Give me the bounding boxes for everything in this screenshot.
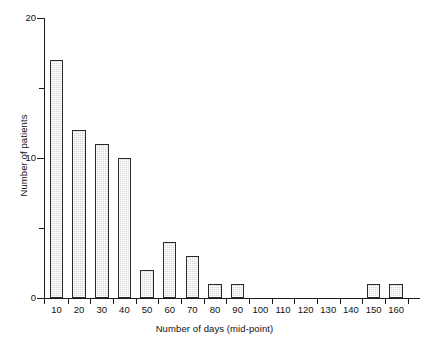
x-axis-tick [181, 299, 182, 304]
y-axis-tick-label: 0 [2, 292, 36, 303]
bar [186, 256, 200, 298]
x-axis-line [44, 298, 420, 299]
x-axis-tick [317, 299, 318, 304]
bar [208, 284, 222, 298]
x-axis-tick [272, 299, 273, 304]
bar [367, 284, 381, 298]
x-axis-tick-label: 40 [119, 304, 130, 315]
x-axis-tick [44, 299, 45, 304]
y-axis-tick-label: 20 [2, 12, 36, 23]
plot-area [44, 18, 420, 298]
x-axis-tick [226, 299, 227, 304]
x-axis-tick [136, 299, 137, 304]
y-axis-tick-label: 10 [2, 152, 36, 163]
x-axis-tick [113, 299, 114, 304]
y-axis-tick-major [37, 158, 44, 159]
x-axis-tick [158, 299, 159, 304]
x-axis-tick-label: 160 [388, 304, 404, 315]
x-axis-tick-label: 140 [343, 304, 359, 315]
bar [118, 158, 132, 298]
x-axis-tick-label: 50 [142, 304, 153, 315]
x-axis-tick-label: 90 [232, 304, 243, 315]
bar [50, 60, 64, 298]
x-axis-tick [385, 299, 386, 304]
bar [231, 284, 245, 298]
bar [163, 242, 177, 298]
x-axis-tick [362, 299, 363, 304]
x-axis-tick-label: 30 [96, 304, 107, 315]
x-axis-tick [204, 299, 205, 304]
x-axis-tick-label: 150 [366, 304, 382, 315]
x-axis-tick-label: 130 [320, 304, 336, 315]
x-axis-tick [294, 299, 295, 304]
x-axis-tick [249, 299, 250, 304]
x-axis-tick-label: 10 [51, 304, 62, 315]
bar [389, 284, 403, 298]
y-axis-tick-major [37, 18, 44, 19]
x-axis-tick-label: 20 [74, 304, 85, 315]
x-axis-tick [90, 299, 91, 304]
bar [72, 130, 86, 298]
y-axis-tick-major [37, 298, 44, 299]
x-axis-tick-label: 110 [275, 304, 290, 315]
x-axis-tick-label: 70 [187, 304, 198, 315]
histogram-chart: Number of patients 01020 102030405060708… [0, 0, 429, 344]
x-axis-tick [68, 299, 69, 304]
x-axis-tick-label: 120 [298, 304, 314, 315]
x-axis-tick [340, 299, 341, 304]
x-axis-title: Number of days (mid-point) [0, 323, 429, 334]
x-axis-tick-label: 100 [252, 304, 268, 315]
bar [95, 144, 109, 298]
x-axis-tick-label: 80 [210, 304, 221, 315]
x-axis-tick [408, 299, 409, 304]
x-axis-tick-label: 60 [164, 304, 175, 315]
bar [140, 270, 154, 298]
